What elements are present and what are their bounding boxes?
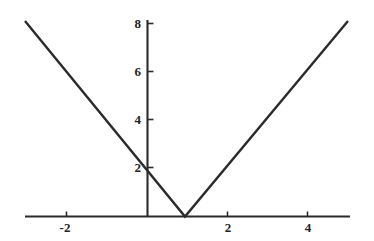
- y-tick-label-4: 4: [135, 113, 142, 126]
- plot-area: [0, 0, 374, 241]
- x-tick-label-neg2: -2: [60, 221, 71, 234]
- chart-figure: 8 6 4 2 -2 2 4: [0, 0, 374, 241]
- y-tick-label-2: 2: [135, 161, 142, 174]
- data-curve: [25, 21, 348, 217]
- x-tick-label-2: 2: [225, 221, 232, 234]
- y-tick-label-8: 8: [135, 17, 142, 30]
- y-tick-label-6: 6: [135, 65, 142, 78]
- x-tick-label-4: 4: [305, 221, 312, 234]
